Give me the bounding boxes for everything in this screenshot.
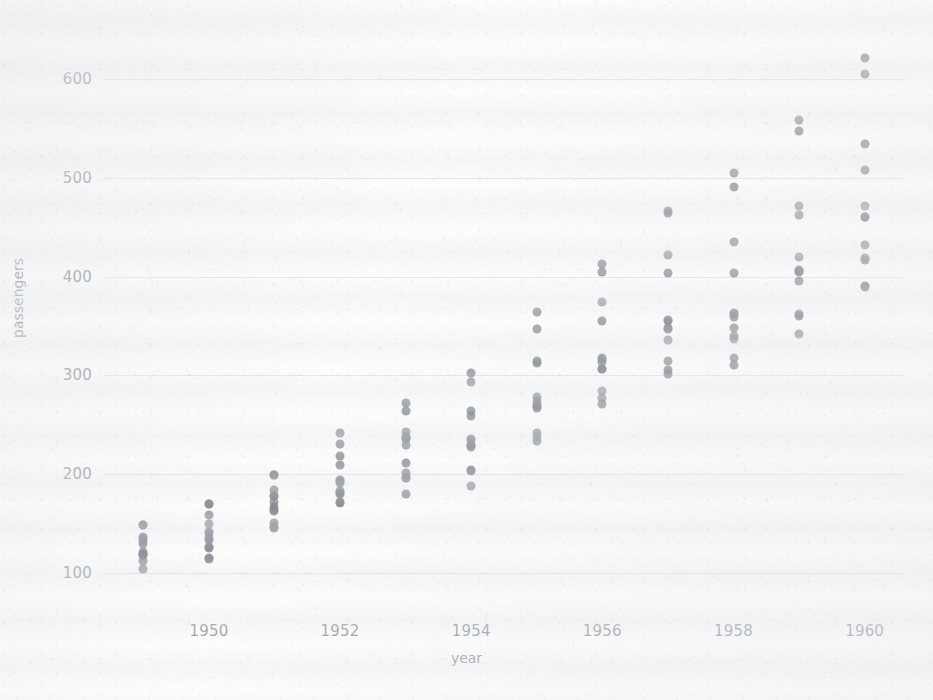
data-point [795,267,804,276]
data-point [336,461,345,470]
data-point [204,511,213,520]
data-point [729,334,738,343]
data-point [598,399,607,408]
data-point [663,250,672,259]
y-tick-label-300: 300 [34,366,92,384]
data-point [795,310,804,319]
y-tick-label-100: 100 [34,564,92,582]
data-point [532,393,541,402]
data-point [795,276,804,285]
data-point [663,356,672,365]
data-point [532,433,541,442]
data-point [663,335,672,344]
data-point [795,115,804,124]
data-point [729,323,738,332]
data-point [467,378,476,387]
data-point [795,329,804,338]
data-point [401,433,410,442]
gridline-y-500 [104,178,904,179]
data-point [336,475,345,484]
y-axis-title: passengers [10,258,26,338]
x-tick-label-1954: 1954 [426,622,516,640]
data-point [795,126,804,135]
data-point [139,550,148,559]
data-point [598,317,607,326]
y-tick-label-500: 500 [34,169,92,187]
data-point [860,201,869,210]
data-point [663,366,672,375]
data-point [139,533,148,542]
y-tick-label-200: 200 [34,465,92,483]
data-point [795,210,804,219]
data-point [795,252,804,261]
data-point [729,313,738,322]
data-point [204,499,213,508]
data-point [270,503,279,512]
data-point [401,489,410,498]
data-point [467,369,476,378]
data-point [860,282,869,291]
data-point [467,466,476,475]
data-point [336,452,345,461]
x-tick-label-1950: 1950 [164,622,254,640]
data-point [860,253,869,262]
x-tick-label-1958: 1958 [689,622,779,640]
data-point [532,359,541,368]
x-tick-label-1952: 1952 [295,622,385,640]
data-point [139,521,148,530]
chart-page: 100200300400500600 195019521954195619581… [0,0,933,700]
scatter-plot: 100200300400500600 195019521954195619581… [0,0,933,700]
data-point [204,520,213,529]
data-point [204,529,213,538]
data-point [598,267,607,276]
data-point [270,470,279,479]
data-point [860,212,869,221]
data-point [336,440,345,449]
data-point [860,241,869,250]
data-point [663,324,672,333]
data-point [401,398,410,407]
y-tick-label-400: 400 [34,268,92,286]
gridline-y-600 [104,79,904,80]
data-point [860,53,869,62]
data-point [729,361,738,370]
data-point [336,428,345,437]
data-point [729,169,738,178]
gridline-y-300 [104,375,904,376]
data-point [401,468,410,477]
x-axis-title: year [0,650,933,666]
data-point [336,486,345,495]
data-point [663,206,672,215]
x-tick-label-1960: 1960 [820,622,910,640]
data-point [467,481,476,490]
y-tick-label-600: 600 [34,70,92,88]
x-tick-label-1956: 1956 [557,622,647,640]
data-point [860,139,869,148]
data-point [729,268,738,277]
data-point [204,554,213,563]
data-point [532,308,541,317]
gridline-y-200 [104,474,904,475]
data-point [204,543,213,552]
data-point [795,201,804,210]
data-point [467,411,476,420]
data-point [729,182,738,191]
data-point [401,406,410,415]
data-point [598,365,607,374]
data-point [336,497,345,506]
gridline-y-400 [104,277,904,278]
data-point [860,166,869,175]
data-point [270,523,279,532]
data-point [270,485,279,494]
data-point [598,353,607,362]
data-point [467,441,476,450]
data-point [729,238,738,247]
gridline-y-100 [104,573,904,574]
data-point [598,298,607,307]
data-point [139,564,148,573]
data-point [860,69,869,78]
data-point [532,324,541,333]
data-point [401,459,410,468]
data-point [401,441,410,450]
data-point [663,268,672,277]
